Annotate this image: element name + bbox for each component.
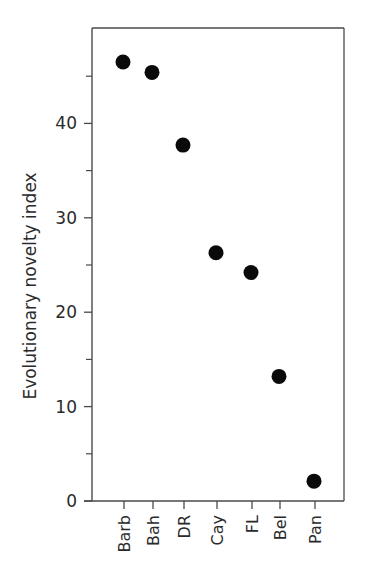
y-tick-label: 20 bbox=[55, 302, 77, 322]
y-axis-title: Evolutionary novelty index bbox=[20, 172, 40, 399]
plot-frame bbox=[84, 28, 344, 501]
data-points bbox=[116, 55, 322, 489]
data-point-bah bbox=[145, 65, 160, 80]
data-point-dr bbox=[176, 138, 191, 153]
y-tick-label: 40 bbox=[55, 113, 77, 133]
x-tick-label-pan: Pan bbox=[306, 515, 325, 544]
data-point-pan bbox=[307, 474, 322, 489]
scatter-chart: 010203040 BarbBahDRCayFLBelPan Evolution… bbox=[0, 0, 367, 583]
data-point-bel bbox=[272, 369, 287, 384]
x-tick-label-fl: FL bbox=[243, 515, 262, 533]
y-tick-label: 0 bbox=[66, 491, 77, 511]
y-tick-label: 30 bbox=[55, 208, 77, 228]
data-point-barb bbox=[116, 55, 131, 70]
x-tick-label-cay: Cay bbox=[208, 515, 227, 545]
data-point-fl bbox=[244, 265, 259, 280]
y-tick-label: 10 bbox=[55, 397, 77, 417]
y-axis: 010203040 bbox=[55, 76, 92, 511]
x-tick-label-bah: Bah bbox=[144, 515, 163, 546]
data-point-cay bbox=[209, 245, 224, 260]
x-axis: BarbBahDRCayFLBelPan bbox=[115, 501, 325, 553]
x-tick-label-dr: DR bbox=[175, 515, 194, 538]
x-tick-label-bel: Bel bbox=[271, 515, 290, 540]
x-tick-label-barb: Barb bbox=[115, 515, 134, 553]
